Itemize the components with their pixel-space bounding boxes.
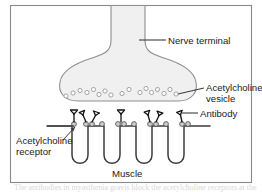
- acetylcholine-vesicle: [85, 90, 89, 94]
- label-acetylcholine-vesicle-line1: Acetylcholine: [206, 82, 262, 93]
- acetylcholine-vesicle: [174, 92, 178, 96]
- antibody: [144, 110, 150, 122]
- acetylcholine-vesicle: [64, 94, 68, 98]
- antibody-group: [71, 110, 183, 122]
- antibody: [156, 111, 163, 122]
- acetylcholine-receptor: [132, 122, 137, 127]
- acetylcholine-vesicle: [138, 90, 142, 94]
- label-antibody: Antibody: [200, 108, 238, 119]
- acetylcholine-vesicle: [91, 87, 95, 91]
- acetylcholine-receptor: [186, 122, 191, 127]
- figure-neuromuscular-junction: The antibodies in myasthenia gravis bloc…: [0, 0, 262, 192]
- acetylcholine-receptor: [122, 122, 127, 127]
- acetylcholine-receptor: [116, 122, 121, 127]
- antibody: [118, 110, 125, 122]
- label-acetylcholine-vesicle-line2: vesicle: [206, 93, 235, 104]
- antibody: [79, 110, 86, 122]
- antibody: [92, 111, 99, 122]
- acetylcholine-vesicle: [109, 93, 113, 97]
- antibody: [177, 110, 182, 122]
- acetylcholine-vesicle: [103, 89, 107, 93]
- acetylcholine-vesicle: [127, 87, 131, 91]
- caption-cutoff-text: The antibodies in myasthenia gravis bloc…: [14, 183, 257, 192]
- antibody: [71, 110, 78, 122]
- acetylcholine-receptor: [100, 122, 105, 127]
- acetylcholine-vesicle: [162, 91, 166, 95]
- acetylcholine-vesicle: [97, 92, 101, 96]
- acetylcholine-vesicle: [120, 91, 124, 95]
- acetylcholine-receptor: [164, 122, 169, 127]
- acetylcholine-vesicle: [71, 91, 75, 95]
- acetylcholine-vesicle: [168, 87, 172, 91]
- acetylcholine-vesicle: [144, 86, 148, 90]
- acetylcholine-vesicle: [155, 87, 159, 91]
- nerve-terminal: [60, 6, 197, 102]
- label-acetylcholine-receptor-line1: Acetylcholine: [16, 135, 73, 146]
- label-acetylcholine-receptor-line2: receptor: [16, 146, 52, 157]
- label-nerve-terminal: Nerve terminal: [168, 35, 230, 46]
- acetylcholine-vesicle: [149, 90, 153, 94]
- label-muscle: Muscle: [112, 168, 142, 179]
- acetylcholine-vesicle: [78, 88, 82, 92]
